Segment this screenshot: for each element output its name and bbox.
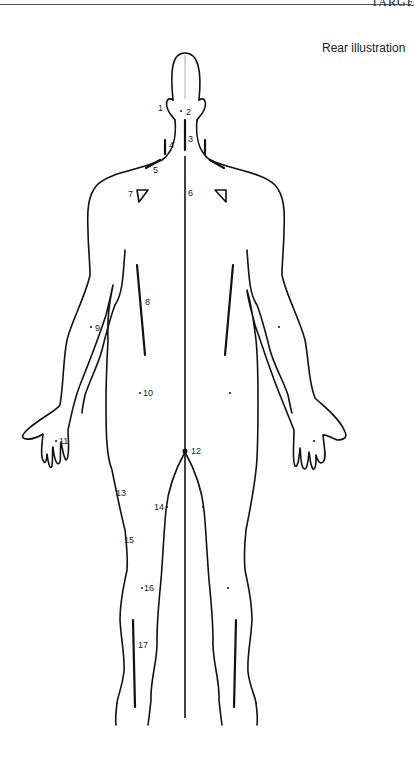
head-outline bbox=[172, 53, 200, 100]
coccyx-marker bbox=[183, 449, 188, 454]
paraspinal-mark-right bbox=[225, 265, 233, 355]
paraspinal-mark-left bbox=[137, 265, 145, 355]
point-10-dot-right bbox=[229, 392, 231, 394]
label-1: 1 bbox=[158, 103, 163, 113]
point-2-dot bbox=[180, 110, 182, 112]
calf-mark-left bbox=[133, 620, 135, 707]
label-4: 4 bbox=[169, 140, 174, 150]
left-ear bbox=[167, 99, 175, 120]
point-10-dot bbox=[139, 392, 141, 394]
right-leg-inner bbox=[185, 452, 222, 725]
point-11-dot bbox=[55, 440, 57, 442]
label-11: 11 bbox=[59, 436, 68, 446]
label-6: 6 bbox=[188, 188, 193, 198]
point-9-dot-right bbox=[278, 326, 280, 328]
point-16-dot-right bbox=[227, 587, 229, 589]
left-arm-inner bbox=[82, 250, 125, 413]
scapula-triangle-right bbox=[215, 190, 226, 202]
label-8: 8 bbox=[145, 297, 150, 307]
label-17: 17 bbox=[138, 640, 148, 650]
point-14-dot-right bbox=[202, 506, 204, 508]
right-arm-inner bbox=[247, 250, 292, 413]
label-12: 12 bbox=[191, 446, 201, 456]
label-15: 15 bbox=[124, 535, 134, 545]
label-7: 7 bbox=[128, 189, 133, 199]
right-leg-outer bbox=[256, 703, 257, 725]
point-9-dot bbox=[90, 326, 92, 328]
label-14: 14 bbox=[154, 502, 164, 512]
label-9: 9 bbox=[95, 323, 100, 333]
scapula-triangle-left bbox=[137, 190, 148, 202]
right-ear bbox=[197, 99, 205, 120]
label-10: 10 bbox=[143, 388, 153, 398]
body-outline-right bbox=[197, 120, 346, 703]
label-5: 5 bbox=[153, 165, 158, 175]
calf-mark-right bbox=[234, 620, 236, 707]
label-16: 16 bbox=[144, 583, 154, 593]
label-13: 13 bbox=[116, 488, 126, 498]
left-leg-outer bbox=[116, 703, 117, 725]
point-11-dot-right bbox=[313, 440, 315, 442]
label-3: 3 bbox=[188, 134, 193, 144]
point-16-dot bbox=[141, 587, 143, 589]
label-2: 2 bbox=[186, 107, 191, 117]
body-outline-left bbox=[23, 120, 176, 703]
point-14-dot bbox=[166, 506, 168, 508]
